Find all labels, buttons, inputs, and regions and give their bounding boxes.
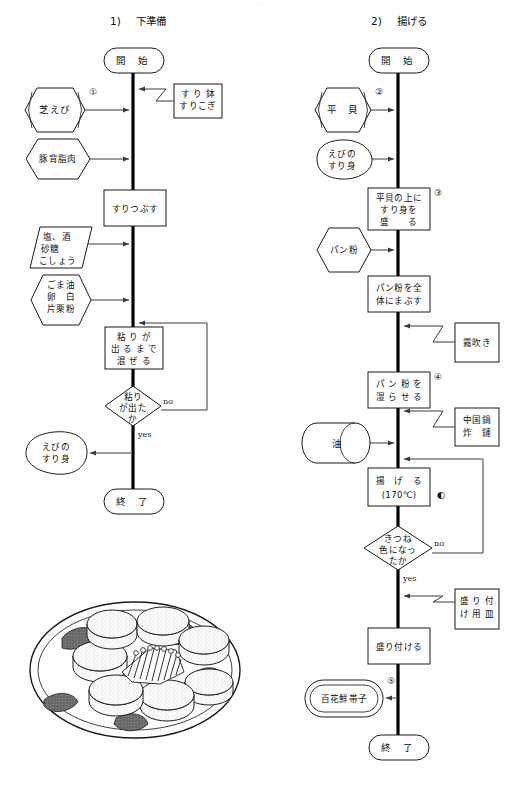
left-decision-line2: が出た [119, 402, 147, 413]
right-process-heap-line1: 平貝の上に [376, 193, 423, 203]
right-tool-spray-bottle-connector [404, 326, 455, 342]
right-start-label: 開 始 [381, 55, 416, 66]
right-input-pen-shell-marker: ② [375, 87, 383, 97]
right-decision-no-label: no [434, 539, 444, 548]
right-output-finished-dish: 百花鮮帯子 ⑤ [305, 676, 396, 717]
right-tool-chinese-wok-line1: 中国鍋 [463, 414, 491, 425]
right-tool-chinese-wok-line2: 炸 鏈 [463, 427, 491, 438]
top-fade-text: · · · · · [252, 0, 275, 9]
right-tool-spray-bottle-label: 霧吹き [463, 337, 491, 348]
right-process-coat-breadcrumbs: パン粉を全 体にまぶす [368, 276, 430, 312]
left-input-shiba-ebi-label: 芝えび [39, 104, 71, 115]
left-input-seasonings-line3: こしょう [39, 256, 76, 266]
right-decision-line3: たか [389, 556, 408, 566]
column-header-right: 2) 揚げる [371, 15, 427, 27]
right-process-plate-up: 盛り付ける [368, 628, 430, 664]
right-decision-yes-label: yes [402, 574, 416, 583]
left-output-shrimp-paste: えびの すり身 [26, 432, 131, 475]
left-process-mix-until-sticky: 粘 り が 出 る ま で 混 ぜ る [105, 327, 163, 369]
left-input-pork-back-fat: 豚背脂肉 [26, 139, 129, 179]
column-right-number: 2) [371, 15, 382, 27]
left-input-seasonings-line2: 砂糖 [41, 243, 60, 254]
right-process-coat-line2: 体にまぶす [376, 295, 423, 306]
left-decision-yes-label: yes [137, 430, 151, 439]
left-start-node: 開 始 [104, 48, 164, 73]
half-circle-marker-icon: ◐ [437, 489, 446, 500]
left-process-mix-line2: 出 る ま で [111, 343, 157, 354]
right-decision-golden-brown: きつね 色になっ たか no yes [364, 526, 444, 583]
right-end-label: 終 了 [381, 742, 416, 753]
right-process-moisten-line1: パ ン 粉 を [376, 378, 422, 389]
right-decision-line1: きつね [384, 534, 412, 544]
left-output-shrimp-paste-line2: すり身 [42, 453, 70, 464]
left-input-binders-line3: 片栗粉 [47, 303, 75, 314]
right-tool-serving-plate: 盛 り 付 け 用 皿 [404, 589, 499, 629]
left-end-node: 終 了 [104, 489, 164, 514]
left-start-label: 開 始 [116, 55, 151, 66]
left-process-grind-label: すりつぶす [112, 204, 159, 214]
right-input-shrimp-paste-line1: えびの [328, 149, 356, 159]
left-process-mix-line1: 粘 り が [117, 331, 151, 342]
left-input-shiba-ebi: 芝えび ① [25, 87, 129, 132]
left-decision-no-label: no [163, 397, 173, 406]
right-tool-serving-plate-line1: 盛 り 付 [460, 595, 494, 606]
right-process-moisten: パ ン 粉 を 湿 ら せ る ④ [368, 372, 442, 408]
left-tool-mortar-pestle-line1: す り 鉢 [181, 88, 215, 99]
right-process-moisten-line2: 湿 ら せ る [376, 392, 422, 402]
left-process-grind: すりつぶす [104, 190, 166, 226]
left-end-label: 終 了 [116, 496, 151, 507]
left-tool-mortar-pestle: す り 鉢 すりこぎ [139, 84, 222, 118]
left-decision-line1: 粘り [124, 391, 143, 402]
right-input-oil: 油 [302, 423, 394, 463]
flowchart-sheet: · · · · · 1) 下準備 2) 揚げる 開 始 芝えび ① す り 鉢 … [0, 0, 526, 785]
right-input-breadcrumbs: パン粉 [317, 228, 394, 272]
right-process-deep-fry-line1: 揚 げ る [376, 475, 423, 486]
column-right-title: 揚げる [397, 15, 427, 27]
right-process-coat-line1: パン粉を全 [376, 282, 423, 293]
right-process-deep-fry: 揚 げ る (170℃) ◐ [368, 468, 446, 506]
right-input-breadcrumbs-label: パン粉 [330, 244, 358, 255]
left-input-seasonings: 塩、酒 砂糖 こしょう [30, 227, 129, 268]
left-input-seasonings-line1: 塩、酒 [43, 231, 71, 242]
right-start-node: 開 始 [369, 48, 429, 73]
right-process-heap-line3: 盛 る [380, 216, 417, 227]
left-input-binders-line2: 卵 白 [47, 291, 75, 302]
plated-dish-illustration [30, 602, 240, 738]
right-input-pen-shell: 平 貝 ② [315, 87, 394, 132]
right-tool-spray-bottle: 霧吹き [404, 323, 499, 362]
right-process-deep-fry-line2: (170℃) [382, 490, 417, 500]
right-input-shrimp-paste: えびの すり身 [317, 140, 394, 179]
left-input-pork-back-fat-label: 豚背脂肉 [39, 153, 76, 164]
right-input-shrimp-paste-line2: すり身 [328, 160, 356, 171]
left-tool-mortar-pestle-line2: すりこぎ [179, 100, 216, 111]
right-tool-chinese-wok: 中国鍋 炸 鏈 [404, 408, 499, 446]
left-process-mix-line3: 混 ぜ る [117, 356, 151, 366]
right-process-moisten-marker: ④ [434, 372, 442, 382]
left-input-binders: ごま油 卵 白 片栗粉 [31, 275, 129, 325]
right-end-node: 終 了 [369, 735, 429, 760]
right-tool-serving-plate-connector [404, 596, 455, 602]
right-process-heap-paste: 平貝の上に すり身を 盛 る ③ [368, 188, 442, 230]
right-output-finished-dish-label: 百花鮮帯子 [321, 693, 368, 704]
left-input-shiba-ebi-marker: ① [89, 87, 97, 97]
left-input-binders-line1: ごま油 [47, 279, 75, 290]
left-decision-line3: か [128, 414, 137, 424]
left-output-shrimp-paste-line1: えびの [42, 442, 70, 452]
left-decision-is-sticky: 粘り が出た か no yes [105, 386, 173, 439]
column-left-title: 下準備 [136, 15, 166, 27]
right-process-plate-up-label: 盛り付ける [376, 641, 423, 652]
right-decision-line2: 色になっ [379, 544, 416, 555]
column-left-number: 1) [110, 15, 121, 27]
right-input-oil-label: 油 [332, 438, 343, 449]
left-tool-mortar-pestle-connector [139, 89, 174, 101]
right-tool-serving-plate-line2: け 用 皿 [460, 609, 494, 619]
right-process-heap-marker: ③ [434, 188, 442, 198]
right-input-pen-shell-label: 平 貝 [327, 104, 359, 115]
right-output-finished-dish-marker: ⑤ [387, 676, 395, 686]
right-tool-chinese-wok-connector [404, 411, 455, 427]
right-process-heap-line2: すり身を [380, 204, 417, 215]
column-header-left: 1) 下準備 [110, 15, 166, 27]
